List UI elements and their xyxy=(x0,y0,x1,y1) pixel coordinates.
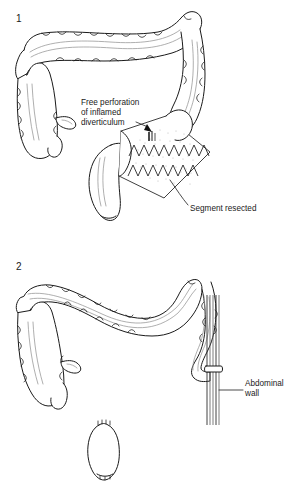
panel-2-number: 2 xyxy=(16,261,22,272)
end-colostomy-stoma xyxy=(205,366,223,372)
free-perforation-label-line-3: diverticulum xyxy=(81,118,125,127)
closed-rectal-stump xyxy=(88,424,120,481)
free-perforation-label-line-1: Free perforation xyxy=(81,98,140,107)
surgical-illustration-figure: 1 xyxy=(0,0,299,492)
abdominal-wall-label-line-1: Abdominal xyxy=(245,379,284,388)
abdominal-wall-label-line-2: wall xyxy=(244,389,259,398)
segment-resected-label: Segment resected xyxy=(190,204,257,213)
panel-1-number: 1 xyxy=(16,13,22,24)
figure-canvas: 1 xyxy=(0,0,299,492)
free-perforation-label-line-2: of inflamed xyxy=(81,108,121,117)
